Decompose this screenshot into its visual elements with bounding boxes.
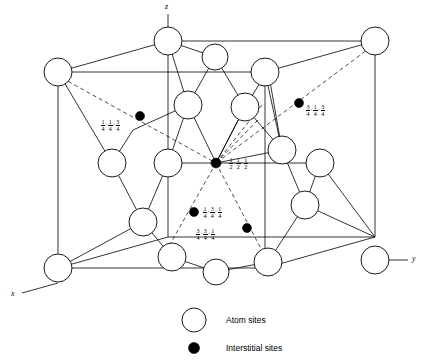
x-axis-label: x [11,290,15,298]
site-label-center: 12·12·12 [229,157,248,171]
atom-site [129,208,157,236]
atom-site [202,44,228,70]
atom-site [44,254,72,282]
atom-site [361,27,389,55]
atom-site [291,191,319,219]
crystal-structure-svg [0,0,433,360]
atom-site [361,246,389,274]
atom-site [251,58,279,86]
legend-atom-label: Atom sites [226,316,266,325]
atom-site [268,136,296,164]
interstitial-site [243,224,252,233]
atom-site [306,149,334,177]
interstitial-site [295,99,304,108]
atom-sites [44,27,389,285]
figure-canvas: z y x 14·14·34 34·14·34 12·12·12 14·34·1… [0,0,433,360]
z-axis-label: z [165,3,168,11]
atom-site [231,93,259,121]
legend-interstitial-symbol [189,343,200,354]
atom-site [174,91,202,119]
x-axis-line [22,283,58,293]
interstitial-site [136,112,145,121]
site-label-lower-right: 34·34·14 [196,228,215,242]
interstitial-site [211,158,221,168]
atom-site [203,259,229,285]
legend-atom-symbol [182,308,206,332]
atom-site [44,58,72,86]
site-label-upper-left: 14·14·34 [101,119,120,133]
interstitial-site [190,208,199,217]
site-label-upper-right: 34·14·34 [306,104,325,118]
atom-site [154,27,182,55]
atom-site [98,149,126,177]
legend-interstitial-label: Interstitial sites [226,344,282,353]
site-label-lower-left: 14·34·14 [203,206,222,220]
y-axis-label: y [412,255,416,263]
atom-site [254,248,282,276]
atom-site [158,243,186,271]
atom-site [154,149,182,177]
